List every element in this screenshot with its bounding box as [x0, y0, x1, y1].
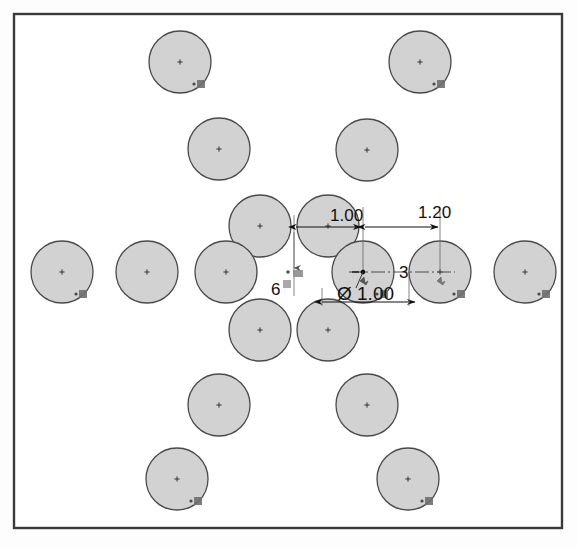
- constraint-badge[interactable]: [542, 290, 550, 298]
- constraint-badge[interactable]: [425, 497, 433, 505]
- sketch-circle[interactable]: [146, 448, 208, 510]
- sketch-circle[interactable]: [229, 299, 291, 361]
- sketch-viewport[interactable]: 1.001.20Ø 1.0036: [0, 0, 578, 547]
- pattern-instance-count-6[interactable]: 6: [271, 280, 280, 299]
- linear-dimension-1.20[interactable]: 1.20: [418, 203, 451, 222]
- sketch-circle[interactable]: [149, 31, 211, 93]
- constraint-badge[interactable]: [194, 497, 202, 505]
- sketch-circle[interactable]: [188, 118, 250, 180]
- diameter-dimension[interactable]: Ø 1.00: [337, 283, 394, 304]
- sketch-circle[interactable]: [188, 374, 250, 436]
- angular-constraint-icon[interactable]: [283, 280, 291, 288]
- constraint-anchor-dot: [286, 270, 290, 274]
- constraint-dot: [420, 499, 423, 502]
- constraint-dot: [432, 82, 435, 85]
- sketch-circle[interactable]: [31, 241, 93, 303]
- constraint-dot: [537, 292, 540, 295]
- pattern-instance-count-3[interactable]: 3: [399, 263, 408, 282]
- constraint-badge[interactable]: [437, 80, 445, 88]
- constraint-dot: [192, 82, 195, 85]
- cad-drawing-canvas[interactable]: 1.001.20Ø 1.0036: [0, 0, 578, 547]
- sketch-circle[interactable]: [336, 119, 398, 181]
- sketch-circle[interactable]: [195, 241, 257, 303]
- linear-dimension-1.00[interactable]: 1.00: [330, 206, 363, 225]
- sketch-circle[interactable]: [494, 241, 556, 303]
- constraint-dot: [74, 292, 77, 295]
- sketch-circle[interactable]: [389, 31, 451, 93]
- constraint-badge[interactable]: [197, 80, 205, 88]
- sketch-circle[interactable]: [377, 448, 439, 510]
- constraint-dot: [452, 292, 455, 295]
- constraint-dot: [189, 499, 192, 502]
- distance-constraint-icon[interactable]: [293, 270, 303, 277]
- sketch-circle[interactable]: [116, 241, 178, 303]
- constraint-badge[interactable]: [79, 290, 87, 298]
- constraint-badge[interactable]: [457, 290, 465, 298]
- sketch-circle[interactable]: [336, 374, 398, 436]
- sketch-circle[interactable]: [297, 299, 359, 361]
